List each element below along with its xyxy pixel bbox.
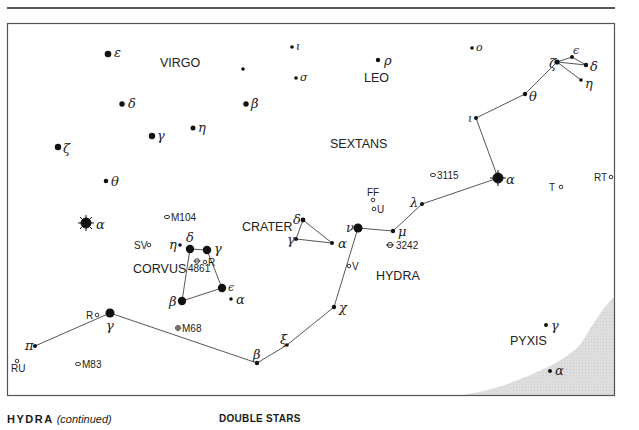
label-pyxis-gamma: γ <box>551 318 559 333</box>
label-corvus: CORVUS <box>133 262 186 276</box>
star-virgo-zeta <box>55 144 61 150</box>
galaxy-3115-icon <box>430 173 435 176</box>
label-virgo-epsilon: ε <box>114 45 121 60</box>
globular-cluster-m68-icon <box>176 326 181 331</box>
label-virgo-theta: θ <box>111 174 119 189</box>
label-var-ru: RU <box>11 363 25 374</box>
label-3242: 3242 <box>396 240 419 251</box>
label-corvus-eta: η <box>169 237 177 252</box>
label-virgo-iota: ι <box>296 40 300 53</box>
label-hydra-epsilon: ϵ <box>573 44 579 57</box>
label-hydra-zeta: ζ <box>549 56 557 71</box>
label-hydra-alpha: α <box>506 172 515 187</box>
label-var-t: T <box>549 182 555 193</box>
label-m68: M68 <box>182 323 202 334</box>
label-corvus-gamma: γ <box>214 241 222 256</box>
star-leo-rho <box>376 58 380 62</box>
star-virgo-beta <box>243 101 248 106</box>
label-leo-rho: ρ <box>383 53 392 68</box>
star-unlabeled <box>241 67 245 71</box>
label-var-sv: SV <box>134 240 148 251</box>
label-virgo-delta: δ <box>128 96 136 111</box>
label-hydra-nu: ν <box>346 220 354 235</box>
label-virgo-zeta: ζ <box>63 141 71 156</box>
galaxy-m83-icon <box>75 362 80 365</box>
label-hydra-delta: δ <box>590 59 598 74</box>
star-hydra-alpha-starburst-icon <box>490 170 506 186</box>
star-virgo-gamma <box>149 133 155 139</box>
section-heading-hydra: HYDRA (continued) <box>7 413 112 425</box>
planetary-nebula-3242-icon <box>386 242 394 247</box>
label-hydra-eta: η <box>585 76 593 91</box>
label-virgo-beta: β <box>250 96 259 111</box>
section-heading-double-stars: DOUBLE STARS <box>219 413 301 424</box>
label-leo: LEO <box>364 71 389 85</box>
star-virgo-alpha-starburst-icon <box>78 215 94 231</box>
label-hydra-xi: ξ <box>280 332 288 347</box>
galaxy-m104-icon <box>164 215 169 218</box>
label-virgo-sigma: σ <box>300 71 308 84</box>
section-title: HYDRA <box>7 413 54 425</box>
label-var-rt: RT <box>594 172 607 183</box>
star-virgo-sigma <box>294 76 298 80</box>
label-corvus-beta: β <box>168 294 177 309</box>
label-sextans: SEXTANS <box>330 137 387 151</box>
label-hydra: HYDRA <box>376 269 420 283</box>
label-virgo-alpha: α <box>96 217 105 232</box>
label-var-u: U <box>377 204 384 215</box>
label-m83: M83 <box>82 359 102 370</box>
label-hydra-chi: χ <box>338 300 348 315</box>
label-virgo-eta: η <box>198 120 206 135</box>
star-pyxis-gamma <box>544 323 548 327</box>
star-chart: VIRGO LEO SEXTANS CRATER CORVUS HYDRA PY… <box>0 0 639 430</box>
star-virgo-epsilon <box>105 51 112 58</box>
star-virgo-iota <box>290 45 294 49</box>
label-3115: 3115 <box>437 170 459 181</box>
section-subtitle: (continued) <box>57 413 112 425</box>
star-leo-omicron <box>470 46 474 50</box>
label-hydra-lambda: λ <box>409 195 418 210</box>
label-hydra-iota: ι <box>468 112 472 125</box>
label-crater-alpha: α <box>338 236 347 251</box>
label-hydra-gamma: γ <box>106 318 114 333</box>
label-var-r-hydra: R <box>86 310 93 321</box>
label-leo-omicron: ο <box>476 41 483 54</box>
label-hydra-beta: β <box>252 347 261 362</box>
label-crater: CRATER <box>242 220 292 234</box>
label-crater-gamma: γ <box>287 232 295 247</box>
constellation-lines <box>35 57 586 363</box>
hydra-stars <box>33 55 588 365</box>
star-pyxis-alpha <box>548 369 552 373</box>
label-hydra-theta: θ <box>529 89 537 104</box>
label-pyxis-alpha: α <box>555 363 564 378</box>
label-m104: M104 <box>171 212 196 223</box>
star-virgo-delta <box>119 101 124 106</box>
label-virgo: VIRGO <box>160 56 201 70</box>
label-hydra-mu: μ <box>398 224 406 239</box>
label-var-r-corvus: R <box>208 257 215 268</box>
star-virgo-theta <box>104 179 109 184</box>
label-virgo-gamma: γ <box>157 128 165 143</box>
label-corvus-delta: δ <box>186 230 194 245</box>
label-var-v: V <box>352 261 359 272</box>
label-var-ff: FF <box>367 187 379 198</box>
label-corvus-alpha: α <box>236 292 245 307</box>
label-corvus-epsilon: ϵ <box>228 281 234 294</box>
label-hydra-pi: π <box>24 338 34 353</box>
label-pyxis: PYXIS <box>510 334 547 348</box>
label-crater-delta: δ <box>293 212 301 227</box>
star-virgo-eta <box>191 126 196 131</box>
